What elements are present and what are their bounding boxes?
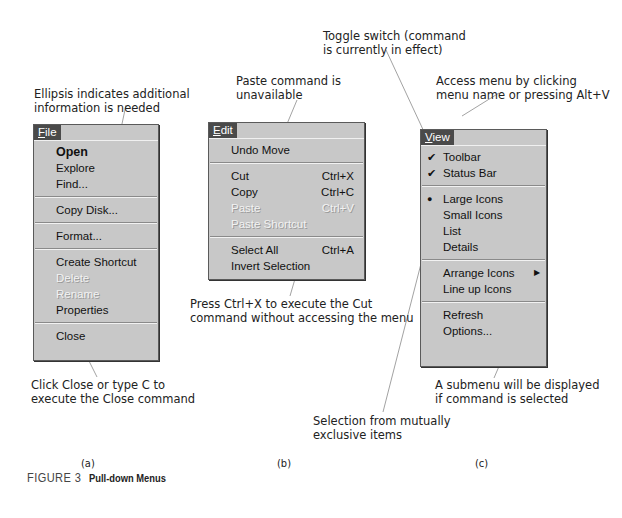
item-label: Toolbar [443, 151, 481, 163]
menu-item-find[interactable]: Find... [34, 176, 158, 192]
menu-item-line-up-icons[interactable]: Line up Icons [421, 281, 546, 297]
menu-item-undo-move[interactable]: Undo Move [209, 142, 364, 158]
callout-line: Press Ctrl+X to execute the Cut [190, 297, 414, 311]
callout-line: Paste command is [236, 74, 341, 88]
menu-separator [210, 162, 363, 164]
figure-caption: FIGURE 3 Pull-down Menus [27, 468, 180, 486]
callout-line: Click Close or type C to [31, 378, 195, 392]
menu-separator [422, 301, 545, 303]
item-label: Create Shortcut [56, 256, 137, 268]
item-label: Small Icons [443, 209, 502, 221]
item-label: Paste [231, 202, 260, 214]
mnemonic: E [213, 124, 221, 136]
menu-item-paste-shortcut: Paste Shortcut [209, 216, 364, 232]
item-label: Copy Disk... [56, 204, 118, 216]
callout-line: exclusive items [313, 428, 451, 442]
leader-toggle [386, 50, 426, 136]
edit-menu: Edit Undo Move CutCtrl+X CopyCtrl+C Past… [208, 122, 365, 280]
menu-item-explore[interactable]: Explore [34, 160, 158, 176]
menu-separator [210, 236, 363, 238]
menu-item-copy-disk[interactable]: Copy Disk... [34, 202, 158, 218]
item-label: Copy [231, 186, 258, 198]
menu-item-refresh[interactable]: Refresh [421, 307, 546, 323]
item-label: Cut [231, 170, 249, 182]
check-icon: ✔ [427, 165, 436, 181]
callout-close: Click Close or type C to execute the Clo… [31, 378, 195, 406]
callout-line: is currently in effect) [323, 43, 466, 57]
callout-line: Selection from mutually [313, 414, 451, 428]
callout-toggle-switch: Toggle switch (command is currently in e… [323, 29, 466, 57]
callout-line: if command is selected [435, 392, 600, 406]
menu-item-list[interactable]: List [421, 223, 546, 239]
menu-item-delete: Delete [34, 270, 158, 286]
menu-item-select-all[interactable]: Select AllCtrl+A [209, 242, 364, 258]
shortcut-label: Ctrl+X [322, 168, 354, 184]
item-label: Refresh [443, 309, 483, 321]
panel-label-b: (b) [277, 457, 291, 470]
callout-submenu: A submenu will be displayed if command i… [435, 378, 600, 406]
item-label: Explore [56, 162, 95, 174]
file-menu-title[interactable]: File [34, 125, 61, 140]
menu-item-properties[interactable]: Properties [34, 302, 158, 318]
menu-separator [422, 185, 545, 187]
title-rest: ile [45, 126, 57, 138]
menu-item-details[interactable]: Details [421, 239, 546, 255]
edit-menu-title[interactable]: Edit [209, 123, 237, 138]
callout-access-menu: Access menu by clicking menu name or pre… [436, 74, 610, 102]
item-label: Open [56, 145, 88, 159]
callout-line: command without accessing the menu [190, 311, 414, 325]
menu-item-arrange-icons[interactable]: Arrange Icons▶ [421, 265, 546, 281]
item-label: Status Bar [443, 167, 497, 179]
callout-line: Toggle switch (command [323, 29, 466, 43]
menu-item-toolbar[interactable]: ✔Toolbar [421, 149, 546, 165]
menu-separator [35, 248, 157, 250]
menu-item-large-icons[interactable]: ●Large Icons [421, 191, 546, 207]
menu-item-status-bar[interactable]: ✔Status Bar [421, 165, 546, 181]
menu-item-small-icons[interactable]: Small Icons [421, 207, 546, 223]
callout-line: unavailable [236, 88, 341, 102]
menu-item-options[interactable]: Options... [421, 323, 546, 339]
item-label: Format... [56, 230, 102, 242]
item-label: Paste Shortcut [231, 218, 306, 230]
callout-line: A submenu will be displayed [435, 378, 600, 392]
radio-bullet-icon: ● [427, 191, 432, 207]
callout-ctrl-x: Press Ctrl+X to execute the Cut command … [190, 297, 414, 325]
menu-item-close[interactable]: Close [34, 328, 158, 344]
callout-mutually-exclusive: Selection from mutually exclusive items [313, 414, 451, 442]
menu-item-cut[interactable]: CutCtrl+X [209, 168, 364, 184]
menu-separator [35, 322, 157, 324]
title-rest: dit [221, 124, 233, 136]
item-label: Line up Icons [443, 283, 511, 295]
menu-item-format[interactable]: Format... [34, 228, 158, 244]
item-label: Close [56, 330, 85, 342]
menu-separator [35, 222, 157, 224]
callout-line: execute the Close command [31, 392, 195, 406]
item-label: Undo Move [231, 144, 290, 156]
menu-item-create-shortcut[interactable]: Create Shortcut [34, 254, 158, 270]
item-label: Invert Selection [231, 260, 310, 272]
figure-title: Pull-down Menus [89, 472, 166, 484]
callout-line: Access menu by clicking [436, 74, 610, 88]
callout-line: Ellipsis indicates additional [34, 87, 190, 101]
panel-label-c: (c) [475, 457, 488, 470]
item-label: Rename [56, 288, 99, 300]
menu-item-invert-selection[interactable]: Invert Selection [209, 258, 364, 274]
menu-item-copy[interactable]: CopyCtrl+C [209, 184, 364, 200]
menu-item-open[interactable]: Open [34, 144, 158, 160]
menu-item-rename: Rename [34, 286, 158, 302]
callout-line: menu name or pressing Alt+V [436, 88, 610, 102]
item-label: List [443, 225, 461, 237]
submenu-arrow-icon: ▶ [534, 265, 540, 281]
shortcut-label: Ctrl+A [322, 242, 354, 258]
view-menu-title[interactable]: View [421, 130, 454, 145]
callout-paste-unavailable: Paste command is unavailable [236, 74, 341, 102]
shortcut-label: Ctrl+C [321, 184, 354, 200]
check-icon: ✔ [427, 149, 436, 165]
title-rest: iew [432, 131, 449, 143]
menu-item-paste: PasteCtrl+V [209, 200, 364, 216]
item-label: Large Icons [443, 193, 503, 205]
item-label: Details [443, 241, 478, 253]
menu-separator [422, 259, 545, 261]
item-label: Find... [56, 178, 88, 190]
item-label: Delete [56, 272, 89, 284]
